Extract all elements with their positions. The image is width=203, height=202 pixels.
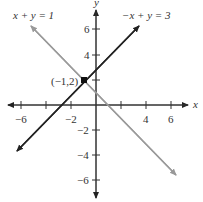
x-tick-label: 4 [143, 113, 149, 125]
y-tick-label: −4 [77, 149, 89, 161]
y-tick-label: 4 [84, 49, 90, 61]
y-axis [92, 10, 100, 198]
y-axis-label: y [93, 0, 99, 8]
x-tick-label: 6 [168, 113, 174, 125]
point-label: (−1,2) [51, 75, 79, 88]
x-tick-label: −2 [65, 113, 77, 125]
x-axis-label: x [192, 98, 198, 110]
intersection-point [81, 77, 87, 83]
x-axis [8, 101, 188, 109]
graph: x y x + y = 1 −x + y = 3 (−1,2) −6 −2 4 … [0, 0, 203, 202]
x-tick-label: −6 [15, 113, 27, 125]
y-tick-label: −6 [77, 174, 89, 186]
y-tick-label: −2 [77, 124, 89, 136]
line1-label: x + y = 1 [12, 9, 54, 21]
line2-label: −x + y = 3 [122, 9, 171, 21]
y-tick-label: 6 [84, 23, 90, 35]
